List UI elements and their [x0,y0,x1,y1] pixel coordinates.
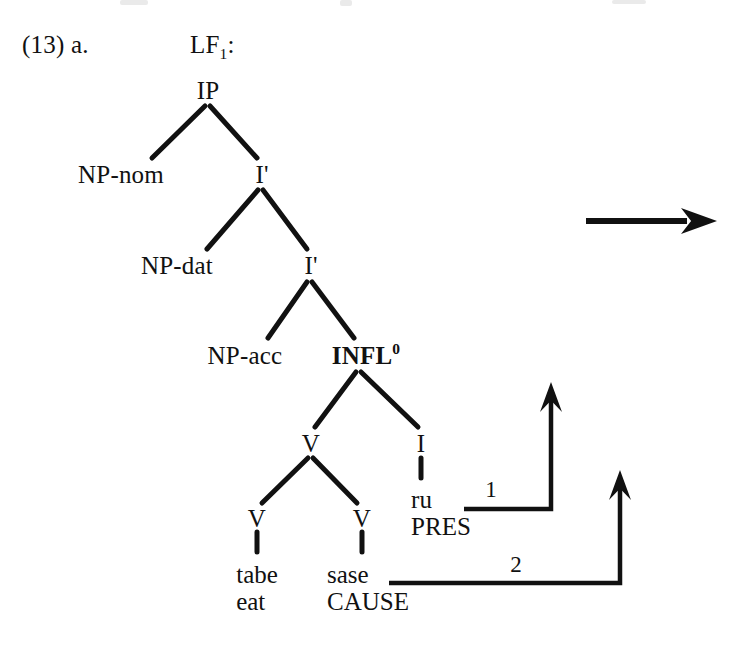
movement-2-label: 2 [510,553,522,576]
terminal-form-ru: ru [411,487,471,514]
terminal-gloss-ru: PRES [411,514,471,541]
branch-infl-0-to-v-mid [315,372,356,427]
terminal-form-tabe: tabe [236,562,278,589]
branch-lines [152,106,421,552]
branch-v-mid-to-v-left [262,458,308,503]
movement-1-label: 1 [485,478,497,501]
infl-label-text: INFL [332,342,393,369]
terminal-tabe: tabeeat [236,562,278,615]
movement-1-path [464,399,551,510]
tree-node-v-left: V [248,506,266,531]
branch-i-bar-1-to-np-dat [207,190,258,249]
infl-superscript: 0 [392,340,400,357]
branch-v-mid-to-v-right [313,458,357,503]
tree-node-v-right: V [353,506,371,531]
terminal-sase: saseCAUSE [327,562,409,615]
movement-arrow-heads [540,382,631,500]
tree-node-i-bar-1: I' [255,162,268,187]
branch-i-bar-2-to-infl-0 [312,282,354,338]
branch-i-bar-1-to-i-bar-2 [263,190,307,249]
figure-canvas: (13) a. LF1: IPNP-nomI'NP-datI'NP-accVIV… [0,0,753,652]
tree-node-infl-0: INFL0 [332,343,400,368]
derivation-arrow-shaft [586,218,687,224]
terminal-ru: ruPRES [411,487,471,540]
tree-node-ip: IP [197,78,220,103]
tree-node-np-dat: NP-dat [141,253,213,278]
branch-ip-to-i-bar-1 [210,106,257,158]
tree-node-np-acc: NP-acc [208,343,283,368]
terminal-gloss-sase: CAUSE [327,589,409,616]
tree-node-i-head: I [417,431,426,456]
tree-node-np-nom: NP-nom [78,162,164,187]
branch-infl-0-to-i-head [361,372,418,427]
terminal-gloss-tabe: eat [236,589,278,616]
terminal-form-sase: sase [327,562,409,589]
derivation-arrow [586,208,717,234]
tree-node-v-mid: V [302,431,320,456]
branch-i-bar-2-to-np-acc [268,282,307,338]
tree-node-i-bar-2: I' [304,253,317,278]
branch-ip-to-np-nom [152,106,205,158]
tree-lines-layer [0,0,753,652]
